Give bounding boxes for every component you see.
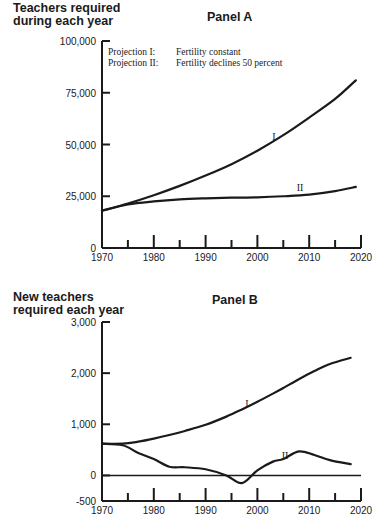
curve-label-II: II: [297, 182, 304, 193]
y-tick-label: 1,000: [71, 419, 96, 430]
y-tick-label: 3,000: [71, 317, 96, 328]
y-tick-label: 2,000: [71, 368, 96, 379]
y-tick-label: 75,000: [65, 88, 96, 99]
y-tick-label: 100,000: [60, 36, 97, 47]
y-tick-label: 25,000: [65, 191, 96, 202]
chart-canvas: 025,00050,00075,000100,00019701980199020…: [0, 0, 384, 531]
x-tick-label: 1970: [91, 252, 114, 263]
curve-label-I: I: [245, 398, 248, 409]
curve-label-II: II: [282, 450, 289, 461]
y-tick-label: 0: [90, 470, 96, 481]
panel-b-plot: -50001,0002,0003,00019701980199020002010…: [71, 317, 373, 516]
x-tick-label: 2000: [246, 505, 269, 516]
series-line-I: [102, 80, 356, 210]
x-tick-label: 2010: [298, 505, 321, 516]
panel-a-plot: 025,00050,00075,000100,00019701980199020…: [60, 36, 373, 263]
x-tick-label: 1980: [143, 252, 166, 263]
x-tick-label: 2020: [350, 252, 373, 263]
x-tick-label: 1970: [91, 505, 114, 516]
y-tick-label: 50,000: [65, 140, 96, 151]
x-tick-label: 2000: [246, 252, 269, 263]
x-tick-label: 2020: [350, 505, 373, 516]
x-tick-label: 2010: [298, 252, 321, 263]
series-line-I: [102, 358, 351, 444]
x-tick-label: 1990: [194, 505, 217, 516]
x-tick-label: 1990: [194, 252, 217, 263]
x-tick-label: 1980: [143, 505, 166, 516]
curve-label-I: I: [272, 131, 275, 142]
series-line-II: [102, 444, 351, 483]
